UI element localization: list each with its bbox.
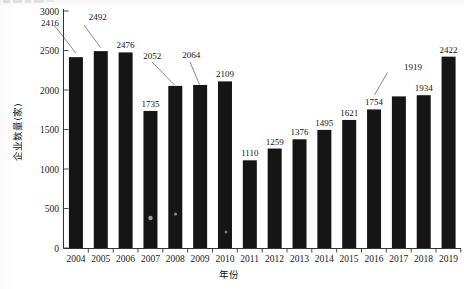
- y-axis-title: 企业数量(家): [12, 103, 23, 160]
- y-tick-label-2500: 2500: [40, 46, 59, 56]
- value-label-2016: 1754: [365, 97, 384, 107]
- bar-chart-canvas: 3000 2500 2000 1500 1000 500 0 企业数量(家): [0, 0, 464, 289]
- value-label-2014: 1495: [315, 118, 334, 128]
- x-tick-label-2011: 2011: [240, 254, 259, 264]
- x-tick-label-2006: 2006: [116, 254, 135, 264]
- y-tick-label-500: 500: [45, 204, 60, 214]
- value-label-2011: 1110: [241, 148, 259, 158]
- value-label-2012: 1259: [266, 137, 285, 147]
- bar-2016: [367, 109, 381, 248]
- leader-line-2064: [190, 62, 200, 85]
- bar-2017: [392, 96, 406, 248]
- bar-2004: [69, 57, 83, 248]
- leader-line-2052: [152, 62, 175, 85]
- leader-line-1919: [375, 73, 388, 96]
- scan-specks: [148, 212, 227, 233]
- x-tick-label-2005: 2005: [91, 254, 110, 264]
- bar-2008: [168, 86, 182, 248]
- x-tick-label-2007: 2007: [141, 254, 160, 264]
- bar-2014: [317, 130, 331, 248]
- x-tick-label-2010: 2010: [215, 254, 234, 264]
- x-tick-label-2014: 2014: [315, 254, 334, 264]
- x-tick-label-2018: 2018: [414, 254, 433, 264]
- x-tick-marks: [88, 249, 461, 253]
- value-label-2006: 2476: [117, 40, 136, 50]
- y-tick-label-2000: 2000: [40, 86, 59, 96]
- bar-2010: [218, 81, 232, 248]
- y-tick-label-1000: 1000: [40, 165, 59, 175]
- bar-2015: [342, 120, 356, 248]
- value-label-2005: 2492: [89, 12, 107, 22]
- bar-2013: [293, 139, 307, 248]
- leader-line-2492: [84, 25, 101, 48]
- y-axis: 3000 2500 2000 1500 1000 500 0 企业数量(家): [12, 7, 69, 254]
- value-label-2013: 1376: [291, 127, 310, 137]
- value-label-2010: 2109: [216, 69, 235, 79]
- x-tick-label-2013: 2013: [290, 254, 309, 264]
- y-tick-label-0: 0: [54, 244, 59, 254]
- bar-2018: [417, 95, 431, 248]
- value-label-2017: 1919: [404, 62, 423, 72]
- x-tick-label-2017: 2017: [389, 254, 408, 264]
- bar-series: [69, 51, 456, 248]
- value-label-2009: 2064: [182, 50, 201, 60]
- bar-2007: [143, 111, 157, 248]
- value-label-2004: 2416: [41, 18, 60, 28]
- x-axis-title: 年份: [219, 269, 239, 280]
- x-tick-label-2009: 2009: [191, 254, 210, 264]
- value-label-2007: 1735: [141, 99, 160, 109]
- bar-2006: [119, 52, 133, 248]
- bar-2019: [442, 57, 456, 248]
- value-label-2018: 1934: [415, 83, 434, 93]
- x-tick-label-2008: 2008: [166, 254, 185, 264]
- x-tick-label-2004: 2004: [66, 254, 85, 264]
- value-label-2008: 2052: [143, 51, 161, 61]
- value-label-2019: 2422: [440, 45, 458, 55]
- bar-2012: [268, 149, 282, 248]
- y-tick-label-1500: 1500: [40, 125, 59, 135]
- x-tick-label-2012: 2012: [265, 254, 284, 264]
- x-tick-label-2016: 2016: [364, 254, 383, 264]
- scan-artifact-top: [3, 0, 54, 3]
- bar-2009: [193, 85, 207, 248]
- x-tick-label-2019: 2019: [439, 254, 458, 264]
- chart-figure: 3000 2500 2000 1500 1000 500 0 企业数量(家): [0, 0, 464, 289]
- x-axis: 2004 2005 2006 2007 2008 2009 2010 2011 …: [64, 249, 462, 281]
- bar-2005: [94, 51, 108, 248]
- value-label-2015: 1621: [340, 108, 358, 118]
- y-tick-label-3000: 3000: [40, 7, 59, 17]
- bar-2011: [243, 160, 257, 248]
- x-tick-label-2015: 2015: [340, 254, 359, 264]
